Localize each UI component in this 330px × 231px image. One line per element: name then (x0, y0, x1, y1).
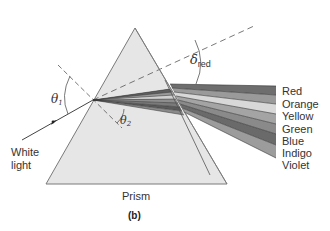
label-blue: Blue (282, 135, 304, 147)
theta1-arc (64, 76, 70, 114)
prism-dispersion-diagram: θ1 θ2 δred White light Prism (b) Red Ora… (0, 0, 330, 231)
prism-label: Prism (122, 190, 150, 202)
white-light-label-line2: light (11, 159, 31, 171)
label-violet: Violet (282, 159, 309, 171)
delta-red-label: δred (190, 52, 211, 69)
theta1-label: θ1 (51, 92, 63, 107)
figure-caption: (b) (128, 210, 141, 221)
label-yellow: Yellow (282, 110, 313, 122)
label-red: Red (282, 85, 302, 97)
arrow-dot-icon (52, 121, 55, 124)
spectrum-labels: Red Orange Yellow Green Blue Indigo Viol… (282, 85, 319, 171)
label-green: Green (282, 123, 313, 135)
label-indigo: Indigo (282, 147, 312, 159)
label-orange: Orange (282, 98, 319, 110)
white-light-label: White (11, 146, 39, 158)
